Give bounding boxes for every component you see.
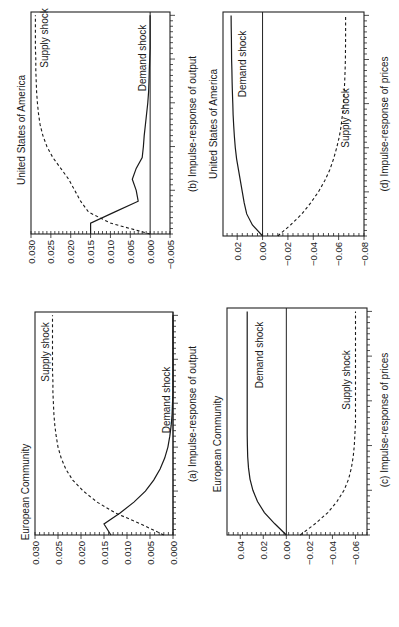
plot-frame	[31, 12, 170, 234]
value-tick-label: −0.04	[327, 541, 338, 565]
panel-title: United States of America	[16, 75, 27, 185]
supply-shock-label: Supply shock	[40, 321, 51, 381]
value-tick-label: 0.015	[99, 541, 110, 565]
panel-caption: (b) Impulse-response of output	[187, 56, 198, 192]
value-tick-label: 0.00	[281, 541, 292, 560]
value-tick-label: −0.02	[304, 541, 315, 565]
panel-title: European Community	[212, 396, 223, 493]
plot-frame	[35, 312, 173, 535]
value-tick-label: 0.02	[258, 541, 269, 560]
panel-c-ec-prices: European Community (c) Impulse-response …	[212, 308, 390, 565]
value-tick-label: 0.020	[76, 541, 87, 565]
value-tick-label: 0.015	[85, 240, 96, 264]
value-tick-label: 0.000	[145, 240, 156, 264]
value-tick-label: 0.030	[26, 240, 37, 264]
demand-shock-label: Demand shock	[254, 321, 265, 389]
plot-frame	[227, 308, 367, 535]
value-tick-label: 0.04	[235, 541, 246, 560]
panel-caption: (d) Impulse-response of prices	[379, 56, 390, 191]
supply-shock-line	[278, 15, 346, 236]
panel-b-us-output: United States of America (b) Impulse-res…	[16, 7, 198, 269]
demand-shock-label: Demand shock	[237, 30, 248, 98]
value-tick-label: 0.030	[30, 541, 41, 565]
demand-shock-label: Demand shock	[161, 366, 172, 434]
value-tick-label: −0.06	[350, 541, 361, 565]
supply-shock-line	[300, 311, 355, 535]
value-tick-label: 0.005	[145, 541, 156, 565]
panel-caption: (c) Impulse-response of prices	[379, 353, 390, 488]
value-tick-label: 0.025	[45, 240, 56, 264]
value-tick-label: 0.025	[53, 541, 64, 565]
panel-title: European Community	[20, 444, 31, 541]
demand-shock-label: Demand shock	[137, 24, 148, 92]
panel-d-us-prices: United States of America (d) Impulse-res…	[208, 12, 390, 266]
value-tick-label: 0.02	[232, 242, 243, 261]
supply-shock-line	[53, 315, 164, 535]
value-tick-label: 0.000	[168, 541, 179, 565]
impulse-response-figure: United States of America (b) Impulse-res…	[0, 0, 399, 627]
value-tick-label: 0.00	[257, 242, 268, 261]
supply-shock-line	[35, 15, 150, 234]
value-tick-label: −0.005	[165, 240, 176, 269]
supply-shock-label: Supply shock	[341, 349, 352, 409]
value-tick-label: −0.02	[282, 242, 293, 266]
value-tick-label: −0.06	[333, 242, 344, 266]
panel-caption: (a) Impulse-response of output	[187, 346, 198, 482]
value-tick-label: −0.04	[308, 242, 319, 266]
panel-a-ec-output: European Community (a) Impulse-response …	[20, 312, 198, 565]
value-tick-label: 0.010	[122, 541, 133, 565]
value-tick-label: 0.010	[105, 240, 116, 264]
supply-shock-label: Supply shock	[39, 7, 50, 67]
value-tick-label: −0.08	[359, 242, 370, 266]
value-tick-label: 0.020	[65, 240, 76, 264]
panel-title: United States of America	[208, 69, 219, 179]
value-tick-label: 0.005	[125, 240, 136, 264]
